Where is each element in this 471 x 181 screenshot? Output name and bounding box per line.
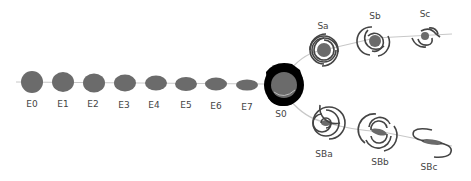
galaxy-s0 bbox=[264, 63, 304, 106]
label-e7: E7 bbox=[241, 102, 252, 112]
galaxy-e0 bbox=[21, 71, 43, 93]
label-e2: E2 bbox=[87, 99, 98, 109]
label-sa: Sa bbox=[317, 21, 328, 31]
galaxy-sbb bbox=[358, 114, 397, 151]
label-s0: S0 bbox=[275, 109, 287, 119]
elliptical-labels: E0 E1 E2 E3 E4 E5 E6 E7 bbox=[26, 99, 252, 112]
label-e1: E1 bbox=[57, 99, 68, 109]
galaxy-e6 bbox=[205, 78, 227, 91]
label-e6: E6 bbox=[210, 101, 222, 111]
galaxy-sc bbox=[412, 28, 440, 47]
galaxy-e3 bbox=[114, 75, 136, 92]
label-sbc: SBc bbox=[421, 162, 438, 172]
galaxy-e7 bbox=[236, 80, 258, 91]
galaxy-e1 bbox=[52, 72, 74, 92]
label-sba: SBa bbox=[315, 149, 332, 159]
galaxy-e5 bbox=[175, 77, 197, 91]
label-sb: Sb bbox=[369, 11, 381, 21]
galaxy-sbc bbox=[413, 129, 451, 157]
tuning-fork-diagram: E0 E1 E2 E3 E4 E5 E6 E7 S0 Sa Sb bbox=[0, 0, 471, 181]
label-e3: E3 bbox=[118, 100, 129, 110]
galaxy-sa bbox=[310, 34, 338, 66]
galaxy-sba bbox=[313, 105, 345, 139]
label-sbb: SBb bbox=[371, 157, 389, 167]
galaxy-e2 bbox=[83, 74, 105, 93]
label-e0: E0 bbox=[26, 99, 38, 109]
label-sc: Sc bbox=[420, 9, 431, 19]
galaxy-e4 bbox=[145, 76, 167, 91]
label-e5: E5 bbox=[180, 100, 191, 110]
elliptical-galaxies bbox=[21, 71, 258, 93]
label-e4: E4 bbox=[148, 100, 160, 110]
